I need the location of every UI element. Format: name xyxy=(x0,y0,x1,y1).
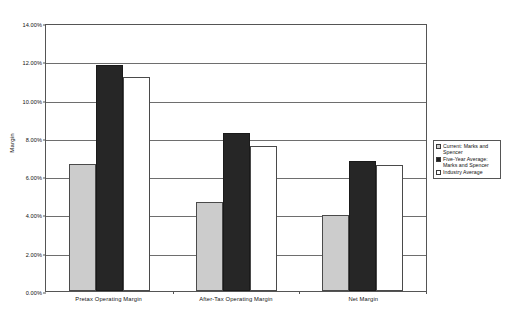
bar-industry[interactable] xyxy=(376,165,403,291)
x-axis-label: After-Tax Operating Margin xyxy=(172,296,299,302)
bar-current[interactable] xyxy=(196,202,223,291)
legend-label: Five-Year Average: Marks and Spencer xyxy=(443,156,498,168)
bar-groups xyxy=(46,25,426,291)
y-axis-title: Margin xyxy=(9,113,15,173)
bar-current[interactable] xyxy=(322,215,349,291)
y-tick-label: 2.00% xyxy=(26,252,42,258)
y-tick-label: 14.00% xyxy=(22,22,42,28)
y-tick-label: 12.00% xyxy=(22,60,42,66)
bar-group xyxy=(46,25,173,291)
y-tick-label: 0.00% xyxy=(26,290,42,296)
bar-current[interactable] xyxy=(69,164,96,291)
chart-legend: Current: Marks and SpencerFive-Year Aver… xyxy=(433,140,501,179)
legend-item[interactable]: Industry Average xyxy=(436,169,498,175)
x-tick-mark xyxy=(173,291,174,294)
x-axis-label: Net Margin xyxy=(300,296,427,302)
legend-item[interactable]: Current: Marks and Spencer xyxy=(436,143,498,155)
bar-chart: Margin 0.00%2.00%4.00%6.00%8.00%10.00%12… xyxy=(0,0,505,320)
bar-group xyxy=(299,25,426,291)
x-axis-labels: Pretax Operating MarginAfter-Tax Operati… xyxy=(45,296,427,302)
bar-fiveyear[interactable] xyxy=(349,161,376,291)
legend-label: Current: Marks and Spencer xyxy=(443,143,498,155)
bar-group xyxy=(173,25,300,291)
bar-industry[interactable] xyxy=(123,77,150,291)
legend-item[interactable]: Five-Year Average: Marks and Spencer xyxy=(436,156,498,168)
x-tick-mark xyxy=(299,291,300,294)
y-tick-mark xyxy=(43,293,46,294)
y-tick-label: 10.00% xyxy=(22,99,42,105)
legend-label: Industry Average xyxy=(443,169,483,175)
bar-fiveyear[interactable] xyxy=(96,65,123,291)
legend-swatch-fiveyear xyxy=(436,157,441,162)
y-tick-label: 8.00% xyxy=(26,137,42,143)
y-tick-label: 6.00% xyxy=(26,175,42,181)
bar-industry[interactable] xyxy=(250,146,277,291)
x-axis-label: Pretax Operating Margin xyxy=(45,296,172,302)
y-tick-label: 4.00% xyxy=(26,213,42,219)
bar-fiveyear[interactable] xyxy=(223,133,250,291)
legend-swatch-industry xyxy=(436,170,441,175)
x-tick-mark xyxy=(426,291,427,294)
plot-area: 0.00%2.00%4.00%6.00%8.00%10.00%12.00%14.… xyxy=(45,24,427,292)
legend-swatch-current xyxy=(436,144,441,149)
